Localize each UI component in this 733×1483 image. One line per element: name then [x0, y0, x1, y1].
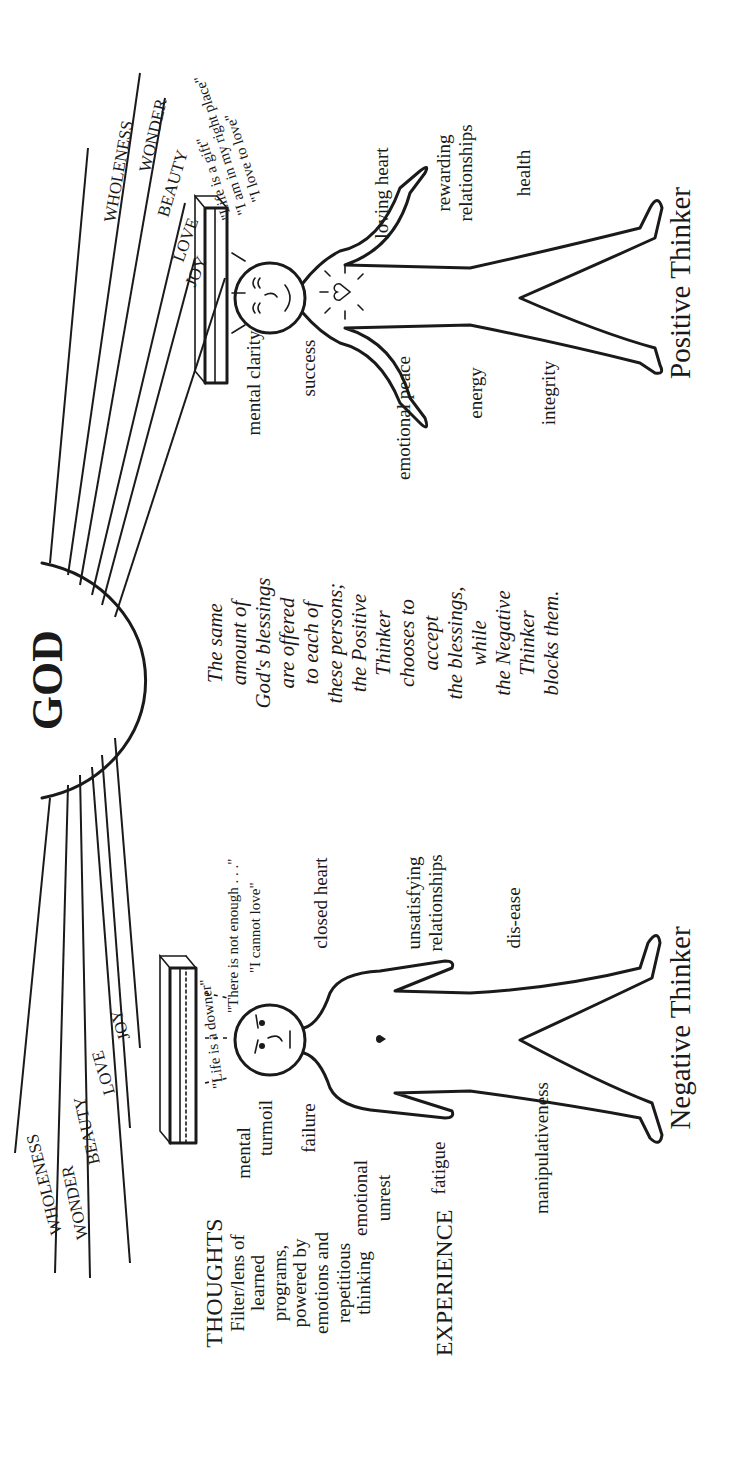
- glowing-heart-icon: [320, 265, 363, 319]
- svg-text:thinking: thinking: [353, 1251, 374, 1315]
- svg-text:dis-ease: dis-ease: [503, 887, 524, 948]
- svg-text:unsatisfying: unsatisfying: [403, 856, 424, 949]
- svg-text:Filter/lens of: Filter/lens of: [227, 1234, 248, 1332]
- negative-body: [304, 936, 662, 1143]
- svg-text:blocks them.: blocks them.: [539, 591, 563, 696]
- svg-text:are offered: are offered: [275, 597, 299, 689]
- svg-text:emotions and: emotions and: [311, 1232, 332, 1334]
- experience-heading: EXPERIENCE: [431, 1210, 457, 1357]
- svg-text:integrity: integrity: [538, 360, 559, 425]
- svg-text:rewarding: rewarding: [433, 134, 454, 212]
- legend: THOUGHTS Filter/lens of learned programs…: [201, 1210, 457, 1357]
- svg-text:chooses to: chooses to: [395, 599, 419, 687]
- negative-head: [235, 1005, 305, 1075]
- svg-text:fatigue: fatigue: [428, 1142, 449, 1195]
- ray-label-joy: JOY: [106, 1007, 134, 1043]
- blessings-diagram: GOD WHOLENESS WONDER BEAUTY LOVE JOY WHO…: [0, 0, 733, 1483]
- ray-label-wholeness: WHOLENESS: [23, 1132, 66, 1236]
- thoughts-heading: THOUGHTS: [201, 1218, 227, 1347]
- negative-quote-1: "Life is a downer": [197, 978, 226, 1089]
- svg-text:accept: accept: [419, 614, 443, 670]
- negative-thinker: "Life is a downer" "There is not enough …: [160, 854, 696, 1236]
- ray-label-beauty: BEAUTY: [154, 148, 192, 219]
- svg-text:mental: mental: [233, 1127, 254, 1179]
- negative-blessing-rays: WHOLENESS WONDER BEAUTY LOVE JOY: [15, 738, 140, 1278]
- svg-text:to each of: to each of: [299, 598, 323, 684]
- svg-text:relationships: relationships: [425, 854, 446, 951]
- closed-heart-icon: [376, 1035, 386, 1043]
- ray-label-beauty: BEAUTY: [70, 1095, 104, 1166]
- svg-text:these persons;: these persons;: [323, 583, 347, 704]
- svg-text:the Negative: the Negative: [491, 590, 515, 696]
- svg-text:while: while: [467, 620, 491, 666]
- ray-label-wholeness: WHOLENESS: [100, 119, 137, 224]
- svg-text:learned: learned: [247, 1255, 268, 1311]
- svg-text:mental clarity: mental clarity: [243, 330, 264, 435]
- svg-text:emotional peace: emotional peace: [393, 356, 414, 480]
- svg-text:energy: energy: [465, 367, 486, 419]
- negative-thinker-label: Negative Thinker: [664, 926, 696, 1130]
- svg-text:amount of: amount of: [227, 598, 251, 686]
- svg-text:The same: The same: [203, 603, 227, 683]
- svg-text:failure: failure: [298, 1103, 319, 1153]
- svg-text:manipulativeness: manipulativeness: [531, 1082, 552, 1214]
- svg-text:closed heart: closed heart: [310, 857, 331, 949]
- svg-text:programs,: programs,: [269, 1245, 290, 1322]
- svg-text:powered by: powered by: [289, 1238, 310, 1328]
- svg-text:health: health: [513, 149, 534, 196]
- negative-filter-lens: [160, 956, 196, 1143]
- center-caption: The same amount of God's blessings are o…: [203, 577, 563, 708]
- svg-text:loving heart: loving heart: [371, 147, 392, 239]
- ray-label-wonder: WONDER: [135, 96, 170, 174]
- frown-face-icon: [255, 1015, 290, 1053]
- negative-quote-3: "I cannot love": [247, 882, 263, 973]
- svg-text:repetitious: repetitious: [333, 1243, 354, 1323]
- svg-text:turmoil: turmoil: [255, 1100, 276, 1156]
- positive-head: [235, 263, 305, 333]
- negative-quote-2: "There is not enough . . .": [225, 859, 241, 1013]
- god-title: GOD: [23, 630, 72, 730]
- svg-text:Thinker: Thinker: [515, 610, 539, 676]
- svg-text:Thinker: Thinker: [371, 610, 395, 676]
- svg-text:God's blessings: God's blessings: [251, 577, 275, 708]
- svg-text:the Positive: the Positive: [347, 594, 371, 693]
- svg-text:emotional: emotional: [350, 1160, 371, 1236]
- smile-face-icon: [253, 278, 290, 313]
- positive-thinker-label: Positive Thinker: [664, 187, 696, 379]
- god-source: GOD: [23, 563, 146, 798]
- positive-thinker: "Life is a gift" "I am in my right place…: [191, 74, 696, 480]
- svg-text:unrest: unrest: [373, 1174, 394, 1221]
- svg-text:relationships: relationships: [455, 124, 476, 221]
- svg-text:the blessings,: the blessings,: [443, 586, 467, 699]
- svg-text:success: success: [298, 340, 319, 397]
